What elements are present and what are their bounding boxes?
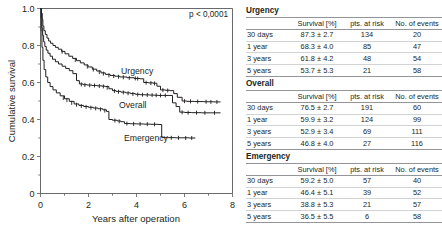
cell-period: 30 days — [246, 175, 292, 187]
cell-at-risk: 6 — [342, 211, 392, 223]
curve-label-emergency: Emergency — [124, 133, 169, 143]
cell-survival: 87.3 ± 2.7 — [292, 29, 342, 41]
statistics-tables: Urgency Survival [%] pts. at risk No. of… — [246, 0, 442, 227]
cell-period: 1 year — [246, 114, 292, 126]
cell-period: 30 days — [246, 29, 292, 41]
cell-at-risk: 48 — [342, 53, 392, 65]
stat-table-emergency: Survival [%] pts. at risk No. of events … — [246, 163, 442, 223]
y-tick-labels: 00.20.40.60.81.0 — [22, 4, 35, 199]
cell-events: 58 — [392, 65, 442, 77]
cell-survival: 36.5 ± 5.5 — [292, 211, 342, 223]
x-axis-title: Years after operation — [92, 213, 180, 224]
table-row: 3 years 38.8 ± 5.3 21 57 — [246, 199, 442, 211]
cell-events: 111 — [392, 126, 442, 138]
x-tick-label: 8 — [230, 200, 235, 210]
kaplan-meier-chart: 00.20.40.60.81.0 02468 Cumulative surviv… — [0, 0, 240, 227]
censoring-marks — [42, 14, 217, 140]
cell-survival: 53.7 ± 5.3 — [292, 65, 342, 77]
cell-events: 20 — [392, 29, 442, 41]
cell-at-risk: 39 — [342, 187, 392, 199]
table-row: 1 year 68.3 ± 4.0 85 47 — [246, 41, 442, 53]
cell-at-risk: 85 — [342, 41, 392, 53]
y-axis-ticks — [37, 9, 41, 194]
chart-canvas: 00.20.40.60.81.0 02468 Cumulative surviv… — [0, 0, 240, 227]
y-axis-title: Cumulative survival — [6, 60, 17, 142]
stat-table-overall: Survival [%] pts. at risk No. of events … — [246, 90, 442, 150]
cell-events: 52 — [392, 187, 442, 199]
table-title-emergency: Emergency — [246, 152, 442, 162]
table-block-urgency: Urgency Survival [%] pts. at risk No. of… — [246, 6, 442, 77]
cell-survival: 52.9 ± 3.4 — [292, 126, 342, 138]
col-header-at-risk: pts. at risk — [342, 18, 392, 30]
cell-at-risk: 69 — [342, 126, 392, 138]
table-title-urgency: Urgency — [246, 6, 442, 16]
cell-survival: 59.2 ± 5.0 — [292, 175, 342, 187]
cell-at-risk: 134 — [342, 29, 392, 41]
survival-curve-urgency — [41, 9, 221, 102]
col-header-events: No. of events — [392, 164, 442, 176]
table-row: 5 years 53.7 ± 5.3 21 58 — [246, 65, 442, 77]
cell-events: 60 — [392, 102, 442, 114]
table-block-emergency: Emergency Survival [%] pts. at risk No. … — [246, 152, 442, 223]
cell-period: 3 years — [246, 53, 292, 65]
table-row: 30 days 87.3 ± 2.7 134 20 — [246, 29, 442, 41]
cell-events: 57 — [392, 199, 442, 211]
col-header-at-risk: pts. at risk — [342, 164, 392, 176]
table-row: 1 year 59.9 ± 3.2 124 99 — [246, 114, 442, 126]
col-header-period — [246, 164, 292, 176]
y-tick-label: 0.6 — [22, 78, 35, 88]
cell-period: 3 years — [246, 199, 292, 211]
col-header-at-risk: pts. at risk — [342, 91, 392, 103]
table-header-row: Survival [%] pts. at risk No. of events — [246, 18, 442, 30]
cell-survival: 76.5 ± 2.7 — [292, 102, 342, 114]
y-tick-label: 0.8 — [22, 41, 35, 51]
cell-period: 30 days — [246, 102, 292, 114]
cell-survival: 59.9 ± 3.2 — [292, 114, 342, 126]
cell-at-risk: 191 — [342, 102, 392, 114]
table-row: 30 days 59.2 ± 5.0 57 40 — [246, 175, 442, 187]
table-row: 5 years 36.5 ± 5.5 6 58 — [246, 211, 442, 223]
cell-events: 116 — [392, 138, 442, 150]
cell-events: 40 — [392, 175, 442, 187]
x-tick-label: 6 — [182, 200, 187, 210]
x-tick-label: 0 — [38, 200, 43, 210]
cell-at-risk: 57 — [342, 175, 392, 187]
cell-survival: 68.3 ± 4.0 — [292, 41, 342, 53]
table-row: 3 years 52.9 ± 3.4 69 111 — [246, 126, 442, 138]
cell-events: 58 — [392, 211, 442, 223]
cell-survival: 38.8 ± 5.3 — [292, 199, 342, 211]
table-row: 3 years 61.8 ± 4.2 48 54 — [246, 53, 442, 65]
cell-at-risk: 21 — [342, 65, 392, 77]
col-header-events: No. of events — [392, 91, 442, 103]
table-row: 30 days 76.5 ± 2.7 191 60 — [246, 102, 442, 114]
col-header-survival: Survival [%] — [292, 18, 342, 30]
cell-period: 5 years — [246, 65, 292, 77]
cell-period: 5 years — [246, 211, 292, 223]
table-title-overall: Overall — [246, 79, 442, 89]
table-header-row: Survival [%] pts. at risk No. of events — [246, 91, 442, 103]
cell-events: 54 — [392, 53, 442, 65]
y-tick-label: 1.0 — [22, 4, 35, 14]
x-axis-ticks — [41, 194, 233, 198]
col-header-survival: Survival [%] — [292, 164, 342, 176]
cell-period: 3 years — [246, 126, 292, 138]
cell-at-risk: 21 — [342, 199, 392, 211]
cell-period: 1 year — [246, 41, 292, 53]
col-header-events: No. of events — [392, 18, 442, 30]
y-tick-label: 0.2 — [22, 152, 35, 162]
cell-survival: 46.8 ± 4.0 — [292, 138, 342, 150]
x-tick-label: 2 — [86, 200, 91, 210]
col-header-survival: Survival [%] — [292, 91, 342, 103]
cell-at-risk: 124 — [342, 114, 392, 126]
table-row: 5 years 46.8 ± 4.0 27 116 — [246, 138, 442, 150]
col-header-period — [246, 18, 292, 30]
table-row: 1 year 46.4 ± 5.1 39 52 — [246, 187, 442, 199]
survival-curve-emergency — [41, 9, 196, 139]
cell-events: 99 — [392, 114, 442, 126]
stat-table-urgency: Survival [%] pts. at risk No. of events … — [246, 17, 442, 77]
survival-figure: 00.20.40.60.81.0 02468 Cumulative surviv… — [0, 0, 442, 227]
table-block-overall: Overall Survival [%] pts. at risk No. of… — [246, 79, 442, 150]
curve-label-urgency: Urgency — [121, 66, 154, 76]
cell-survival: 46.4 ± 5.1 — [292, 187, 342, 199]
cell-period: 1 year — [246, 187, 292, 199]
